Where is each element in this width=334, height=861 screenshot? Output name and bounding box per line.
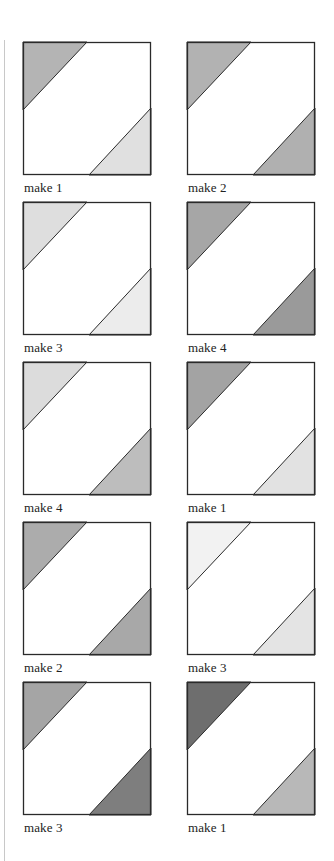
block-count-label: make 1 (188, 821, 227, 835)
block-drawing (187, 682, 315, 815)
block-drawing (187, 42, 315, 175)
block-drawing (23, 682, 151, 815)
block-drawing (187, 202, 315, 335)
left-margin-rule (4, 40, 5, 861)
block-drawing (23, 362, 151, 495)
block-drawing (187, 522, 315, 655)
block-count-label: make 3 (24, 341, 63, 355)
quilt-block-3 (23, 202, 151, 335)
block-count-label: make 2 (188, 181, 227, 195)
quilt-block-4 (187, 202, 315, 335)
quilt-block-8 (187, 522, 315, 655)
quilt-block-6 (187, 362, 315, 495)
block-count-label: make 1 (24, 181, 63, 195)
quilt-block-7 (23, 522, 151, 655)
block-drawing (23, 202, 151, 335)
block-drawing (23, 522, 151, 655)
block-count-label: make 3 (24, 821, 63, 835)
quilt-block-2 (187, 42, 315, 175)
block-count-label: make 4 (188, 341, 227, 355)
block-count-label: make 3 (188, 661, 227, 675)
block-count-label: make 1 (188, 501, 227, 515)
quilt-block-1 (23, 42, 151, 175)
quilt-block-5 (23, 362, 151, 495)
block-drawing (187, 362, 315, 495)
block-count-label: make 4 (24, 501, 63, 515)
quilt-block-9 (23, 682, 151, 815)
quilt-block-10 (187, 682, 315, 815)
block-count-label: make 2 (24, 661, 63, 675)
block-drawing (23, 42, 151, 175)
